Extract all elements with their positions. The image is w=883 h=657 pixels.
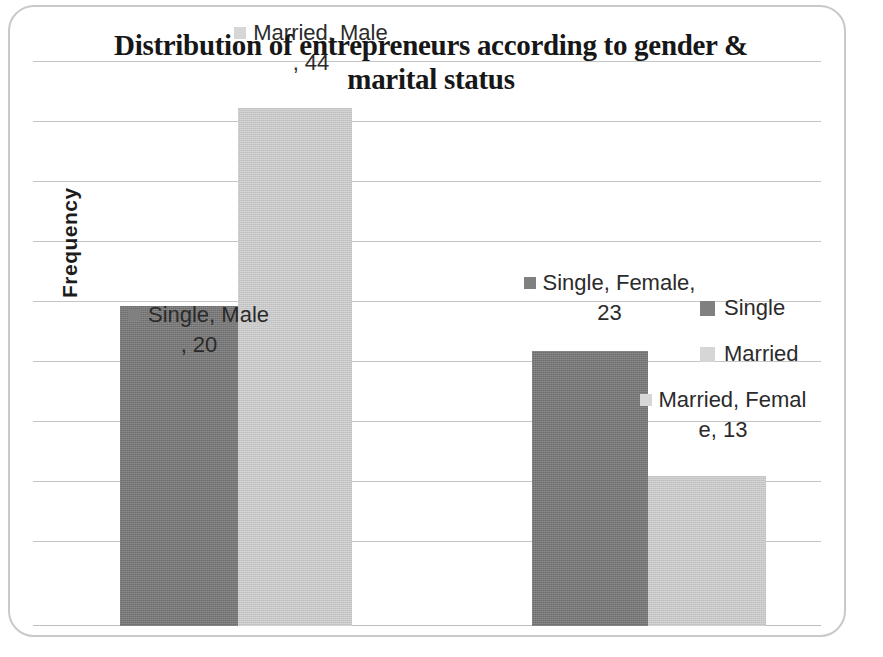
y-axis-title-text: Frequency [58,187,82,298]
data-label-marker-icon [129,309,141,321]
data-label-text: Single, Male [148,302,269,327]
bar-married-male[interactable] [238,108,352,626]
data-label-single-male: Single, Male , 20 [84,300,314,360]
data-label-married-female-line-2: e, 13 [604,415,842,445]
data-label-marker-icon [640,394,652,406]
data-label-single-female-line-1: Single, Female, [492,268,727,298]
legend-item-label: Single [724,295,785,321]
legend-item-married[interactable]: Married [700,331,799,377]
chart-title-line-2: marital status [86,62,776,96]
data-label-marker-icon [524,277,536,289]
data-label-single-female-line-2: 23 [492,298,727,328]
chart-title-line-1: Distribution of entrepreneurs according … [86,28,776,62]
data-label-married-female: Married, Femal e, 13 [604,385,842,445]
data-label-text: Married, Femal [659,387,807,412]
chart-title: Distribution of entrepreneurs according … [86,28,776,96]
legend-item-label: Married [724,341,799,367]
legend-swatch-icon [700,301,715,316]
data-label-text: Single, Female, [543,270,696,295]
legend-item-single[interactable]: Single [700,285,799,331]
chart-screenshot: Distribution of entrepreneurs according … [0,0,883,657]
bar-married-female[interactable] [648,476,766,626]
data-label-single-female: Single, Female, 23 [492,268,727,328]
legend-swatch-icon [700,347,715,362]
data-label-single-male-line-2: , 20 [84,330,314,360]
data-label-single-male-line-1: Single, Male [84,300,314,330]
chart-legend: Single Married [700,285,799,377]
y-axis-title: Frequency [36,100,64,300]
data-label-married-female-line-1: Married, Femal [604,385,842,415]
